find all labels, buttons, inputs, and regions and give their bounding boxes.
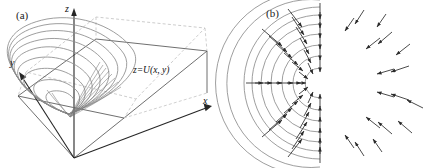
panel-b-tag: (b) (266, 7, 279, 20)
gradient-arrow (373, 139, 382, 152)
gradient-arrow (378, 122, 392, 134)
surface-contours (7, 18, 135, 115)
gradient-arrow (292, 17, 304, 35)
gradient-arrow (308, 63, 313, 74)
gradient-arrow (366, 38, 380, 49)
panel-a-canvas: (a) z y x z=U(x, y) (0, 0, 214, 168)
y-axis-label: y (9, 57, 15, 68)
figure-root: (a) z y x z=U(x, y) (0, 0, 428, 168)
gradient-arrow (396, 44, 410, 55)
gradient-arrows-ring-7 (345, 18, 394, 148)
panel-a-tag: (a) (16, 9, 29, 22)
gradient-arrow (345, 18, 354, 31)
gradient-arrow (355, 142, 364, 156)
contour-arcs (216, 0, 320, 168)
x-axis (74, 108, 206, 158)
gradient-arrow (407, 100, 423, 108)
base-plane (18, 39, 207, 118)
gradient-arrow (308, 92, 313, 103)
panel-a: (a) z y x z=U(x, y) (0, 0, 214, 168)
surface-equation-label: z=U(x, y) (132, 65, 169, 76)
gradient-arrow (355, 10, 364, 24)
gradient-arrow (276, 44, 292, 58)
gradient-arrows-ring-9 (373, 14, 423, 152)
gradient-arrow (276, 108, 292, 122)
gradient-arrow (398, 121, 412, 133)
z-axis-arrowhead (71, 8, 77, 16)
gradient-arrow (284, 53, 298, 65)
panel-b-canvas: (b) (214, 0, 428, 168)
gradient-arrow (366, 117, 380, 128)
gradient-arrows-ring-8 (355, 10, 409, 156)
gradient-arrow (345, 135, 354, 148)
gradient-arrow (377, 14, 386, 27)
gradient-arrow (284, 101, 298, 113)
contour-arc (216, 0, 320, 168)
gradient-arrow (378, 32, 392, 44)
panel-b: (b) (214, 0, 428, 168)
funnel-wall-hatching (47, 62, 121, 117)
y-axis (24, 80, 74, 158)
domain-plane-dashed (26, 17, 205, 99)
gradient-arrow (292, 131, 304, 149)
z-axis-label: z (64, 3, 69, 14)
x-axis-label: x (202, 95, 208, 106)
